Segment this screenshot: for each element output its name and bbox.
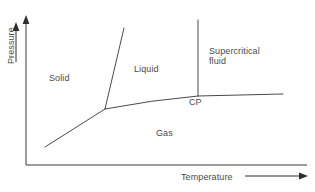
vaporization-curve — [105, 96, 198, 109]
supercritical-label-line1: Supercritical — [209, 46, 260, 56]
region-label-supercritical-fluid: Supercritical fluid — [209, 46, 260, 66]
y-axis-arrow-icon — [23, 15, 30, 24]
region-label-liquid: Liquid — [134, 64, 159, 74]
x-axis-label: Temperature — [181, 172, 233, 182]
region-label-gas: Gas — [156, 128, 173, 138]
fusion-curve — [105, 28, 124, 109]
phase-diagram-figure: Pressure Temperature Solid Liquid Gas Su… — [0, 0, 315, 192]
critical-point-label: CP — [189, 97, 202, 107]
region-label-solid: Solid — [49, 73, 70, 83]
phase-diagram-canvas — [0, 0, 315, 192]
temperature-arrow-icon — [299, 173, 308, 180]
sublimation-curve — [45, 109, 105, 147]
supercritical-label-line2: fluid — [209, 56, 226, 66]
y-axis-label: Pressure — [6, 27, 16, 64]
supercritical-horizontal-line — [198, 94, 283, 96]
